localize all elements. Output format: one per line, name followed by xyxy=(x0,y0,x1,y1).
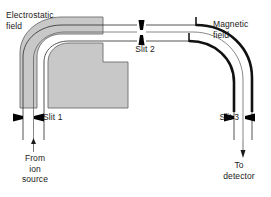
magnetic-field-label: Magnetic field xyxy=(213,19,248,40)
mass-spectrometer-diagram: Electrostatic field Magnetic field Slit … xyxy=(0,0,271,197)
to-detector-label: To detector xyxy=(212,160,266,181)
ion-beam-entry-arrow xyxy=(31,138,36,152)
slit-2-label: Slit 2 xyxy=(124,44,166,55)
ion-beam-exit-arrow xyxy=(241,140,246,158)
beam-trajectory-magnetic xyxy=(193,32,243,140)
slit-1-label: Slit 1 xyxy=(43,112,63,123)
slit-3-right-wedge xyxy=(245,114,255,122)
slit-1-marker xyxy=(13,114,44,122)
entry-arrow-head xyxy=(31,138,36,144)
from-ion-source-label: From ion source xyxy=(5,153,65,185)
electrostatic-inner-sector xyxy=(48,43,128,108)
magnetic-inner-arc xyxy=(189,41,234,112)
slit-3-label: Slit 3 xyxy=(205,112,239,123)
slit-1-left-wedge xyxy=(13,114,23,122)
slit-2-marker xyxy=(139,20,145,45)
slit-2-upper-wedge xyxy=(139,20,145,30)
exit-arrow-head xyxy=(241,150,246,158)
electrostatic-field-label: Electrostatic field xyxy=(6,10,54,31)
